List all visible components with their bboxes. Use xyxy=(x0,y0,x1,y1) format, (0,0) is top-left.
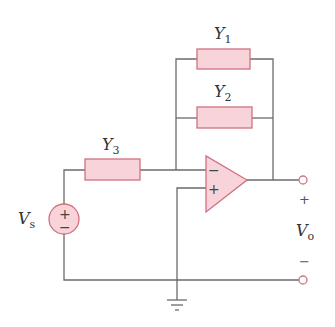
noninverting-input-sign: + xyxy=(208,181,220,197)
svg-text:Y2: Y2 xyxy=(214,82,232,104)
svg-text:Vo: Vo xyxy=(296,221,315,243)
output-terminal-bottom xyxy=(299,276,307,284)
voltage-source: + − Vs xyxy=(18,204,79,235)
output-terminals: + Vo − xyxy=(296,176,315,284)
circuit-diagram: Y1 Y2 Y3 − + + − Vs + Vo − xyxy=(0,0,335,327)
ground-icon xyxy=(167,300,187,310)
svg-text:Y3: Y3 xyxy=(102,135,120,157)
admittance-y2: Y2 xyxy=(197,82,252,128)
admittance-y3: Y3 xyxy=(85,135,140,180)
output-plus-sign: + xyxy=(299,192,310,207)
inverting-input-sign: − xyxy=(208,162,220,178)
source-minus-sign: − xyxy=(59,219,71,235)
op-amp: − + xyxy=(206,156,247,212)
output-terminal-top xyxy=(299,176,307,184)
svg-text:Y1: Y1 xyxy=(214,24,232,46)
admittance-y1: Y1 xyxy=(197,24,250,69)
output-minus-sign: − xyxy=(299,254,310,269)
svg-text:Vs: Vs xyxy=(18,209,36,231)
